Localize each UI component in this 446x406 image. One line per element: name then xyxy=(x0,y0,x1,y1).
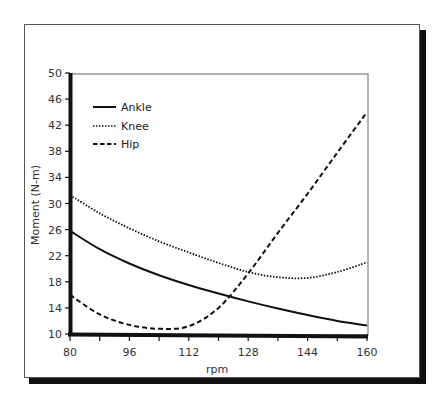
x-tick-label: 128 xyxy=(238,346,259,359)
y-tick-label: 38 xyxy=(48,145,62,158)
legend-ankle-label: Ankle xyxy=(121,101,152,114)
y-tick-label: 14 xyxy=(48,302,62,315)
y-tick-label: 26 xyxy=(48,224,62,237)
y-axis-title: Moment (N-m) xyxy=(29,165,42,245)
x-tick-label: 160 xyxy=(357,346,378,359)
x-tick-label: 80 xyxy=(63,346,77,359)
y-tick-label: 42 xyxy=(48,119,62,132)
y-tick-label: 46 xyxy=(48,93,62,106)
x-tick-label: 144 xyxy=(297,346,318,359)
x-tick-label: 96 xyxy=(122,346,136,359)
y-tick-label: 34 xyxy=(48,171,62,184)
x-tick-label: 112 xyxy=(178,346,199,359)
y-tick-label: 30 xyxy=(48,198,62,211)
series-ankle-line xyxy=(70,231,367,326)
plot-area xyxy=(70,74,368,335)
y-tick-label: 18 xyxy=(48,276,62,289)
series-knee-line xyxy=(70,195,367,278)
legend-knee-label: Knee xyxy=(121,120,149,133)
y-tick-label: 22 xyxy=(48,250,62,263)
y-ticks: 1014182226303438424650 xyxy=(48,67,70,341)
legend: Ankle Knee Hip xyxy=(93,101,152,151)
x-axis-title: rpm xyxy=(206,363,228,376)
y-tick-label: 50 xyxy=(48,67,62,80)
y-tick-label: 10 xyxy=(48,328,62,341)
legend-hip-label: Hip xyxy=(121,138,139,151)
chart: 1014182226303438424650 8096112128144160 … xyxy=(0,0,446,406)
